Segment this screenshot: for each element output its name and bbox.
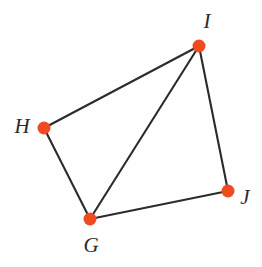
geometry-figure-canvas: GHIJ xyxy=(0,0,262,267)
edge-jg xyxy=(90,191,228,219)
edges-group xyxy=(44,46,228,219)
vertex-label-h: H xyxy=(14,116,29,137)
vertices-group xyxy=(38,40,235,226)
edge-ij xyxy=(199,46,228,191)
edge-gh xyxy=(44,128,90,219)
vertex-point-g xyxy=(84,213,97,226)
vertex-point-h xyxy=(38,122,51,135)
vertex-point-i xyxy=(193,40,206,53)
edge-hi xyxy=(44,46,199,128)
quadrilateral-diagram xyxy=(0,0,262,267)
vertex-label-j: J xyxy=(240,187,249,208)
vertex-point-j xyxy=(222,185,235,198)
edge-ig xyxy=(90,46,199,219)
vertex-label-g: G xyxy=(83,235,98,256)
vertex-label-i: I xyxy=(204,11,211,32)
